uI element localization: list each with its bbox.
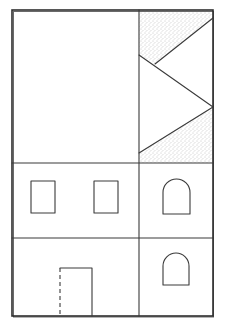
diagonal-middle-down <box>139 55 213 107</box>
arched-window-upper <box>163 179 190 214</box>
outline-shadow <box>14 12 214 318</box>
rect-window-center <box>94 181 118 213</box>
floor-dividers <box>12 10 213 316</box>
shaded-regions <box>139 10 213 163</box>
arched-window-lower <box>163 253 189 285</box>
windows <box>31 179 190 285</box>
bottom-shaded-triangle <box>139 107 213 163</box>
door-frame <box>60 268 92 316</box>
facade-drawing <box>0 0 225 327</box>
rect-window-left <box>31 181 55 213</box>
top-shaded-triangle <box>139 10 213 64</box>
facade-svg <box>0 0 225 327</box>
door <box>60 268 92 316</box>
